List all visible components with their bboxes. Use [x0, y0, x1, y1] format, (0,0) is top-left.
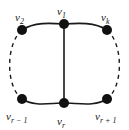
edge-v2-vrm1-dashed — [10, 30, 22, 99]
node-label-vr: vr — [57, 116, 65, 127]
node-vrm1 — [17, 94, 27, 104]
node-label-vr-plus-1: vr + 1 — [95, 111, 116, 122]
node-label-vr-minus-1: vr − 1 — [6, 111, 27, 122]
node-label-v2: v2 — [15, 12, 24, 23]
node-v2 — [17, 25, 27, 35]
node-label-vr-sub: r — [62, 121, 65, 130]
node-vr — [59, 98, 69, 108]
node-label-v1: v1 — [57, 6, 66, 17]
node-label-vk: vk — [101, 12, 109, 23]
node-v1 — [59, 19, 69, 29]
node-label-vrm1-sub: r − 1 — [11, 116, 28, 125]
graph-diagram: v2 v1 vk vr − 1 vr vr + 1 — [0, 0, 129, 130]
node-label-vrp1-sub: r + 1 — [100, 116, 117, 125]
node-label-vk-sub: k — [106, 17, 110, 26]
node-vk — [102, 25, 112, 35]
node-label-v2-sub: 2 — [20, 17, 24, 26]
edge-vk-vrp1-dashed — [107, 30, 119, 99]
node-label-v1-sub: 1 — [62, 11, 66, 20]
node-vrp1 — [102, 94, 112, 104]
